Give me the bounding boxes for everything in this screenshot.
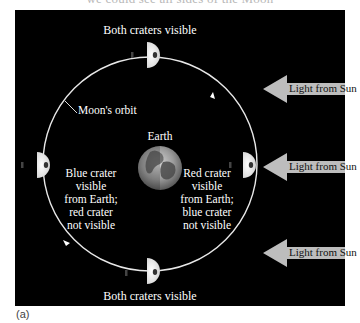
orbit-arrow-icon bbox=[210, 92, 215, 99]
label-bottom-moon: Both craters visible bbox=[90, 290, 210, 303]
label-top-moon: Both craters visible bbox=[90, 24, 210, 37]
sun-arrow-label-3: Light from Sun bbox=[289, 246, 349, 259]
sun-arrow-label-2: Light from Sun bbox=[289, 160, 349, 173]
label-right-moon: Red crater visible from Earth; blue crat… bbox=[168, 167, 246, 232]
moon-left-icon bbox=[21, 152, 50, 178]
label-earth: Earth bbox=[130, 130, 190, 143]
label-moon-orbit: Moon's orbit bbox=[78, 104, 158, 117]
orbit-leader-line bbox=[65, 101, 77, 113]
moon-top-icon bbox=[131, 42, 160, 68]
figure-label: (a) bbox=[16, 308, 29, 320]
label-left-moon: Blue crater visible from Earth; red crat… bbox=[54, 167, 128, 232]
sun-arrow-label-1: Light from Sun bbox=[289, 82, 349, 95]
orbit-arrow-icon bbox=[63, 240, 70, 246]
